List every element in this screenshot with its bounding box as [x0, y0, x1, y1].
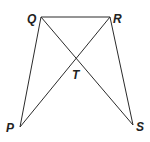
label-s: S [136, 120, 144, 134]
label-p: P [6, 121, 15, 135]
label-t: T [72, 68, 81, 82]
segment-qs [41, 17, 133, 125]
geometry-diagram: Q R T P S [0, 0, 150, 142]
point-labels: Q R T P S [6, 12, 144, 135]
segment-rp [20, 17, 110, 127]
label-r: R [113, 12, 122, 26]
segment-qp [20, 17, 41, 127]
segment-rs [110, 17, 133, 125]
label-q: Q [27, 12, 37, 26]
